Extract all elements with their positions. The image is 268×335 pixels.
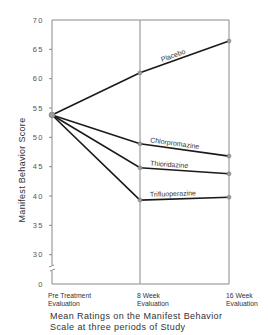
y-tick-label: 70 <box>33 16 44 25</box>
y-tick-label: 35 <box>33 221 44 230</box>
y-axis-ticks: 0303540455055606570 <box>33 16 52 289</box>
y-tick-label: 0 <box>38 280 44 289</box>
x-category-label: Evaluation <box>48 300 80 307</box>
series-labels: PlaceboChlorpromazineThioridazineTrifluo… <box>150 48 200 199</box>
data-point-marker <box>227 154 231 158</box>
x-category-label: Evaluation <box>137 300 169 307</box>
y-tick-label: 55 <box>33 104 44 113</box>
y-tick-label: 30 <box>33 250 44 259</box>
y-tick-label: 50 <box>33 133 44 142</box>
data-point-marker <box>138 166 142 170</box>
x-category-label: 16 Week <box>226 292 253 299</box>
data-point-marker <box>227 39 231 43</box>
y-tick-label: 65 <box>33 45 44 54</box>
series-label-trifluoperazine: Trifluoperazine <box>150 189 196 199</box>
y-tick-label: 40 <box>33 192 44 201</box>
baseline-point-marker <box>49 112 55 118</box>
series-label-thioridazine: Thioridazine <box>150 160 189 170</box>
x-axis-category-labels: Pre TreatmentEvaluation8 WeekEvaluation1… <box>48 292 258 307</box>
line-chart: 0303540455055606570 PlaceboChlorpromazin… <box>0 0 268 335</box>
caption-line: Scale at three periods of Study <box>50 322 186 332</box>
y-tick-label: 45 <box>33 162 44 171</box>
data-point-marker <box>227 195 231 199</box>
x-category-label: Evaluation <box>226 300 258 307</box>
y-tick-label: 60 <box>33 74 44 83</box>
axis-break-icon <box>49 265 55 271</box>
caption-line: Mean Ratings on the Manifest Behavior <box>50 311 222 321</box>
y-axis-title: Manifest Behavior Score <box>17 118 27 223</box>
x-category-label: Pre Treatment <box>48 292 91 299</box>
data-point-marker <box>138 198 142 202</box>
chart-caption: Mean Ratings on the Manifest BehaviorSca… <box>50 311 222 332</box>
data-point-marker <box>138 71 142 75</box>
data-point-marker <box>227 172 231 176</box>
data-point-marker <box>138 142 142 146</box>
x-category-label: 8 Week <box>137 292 161 299</box>
